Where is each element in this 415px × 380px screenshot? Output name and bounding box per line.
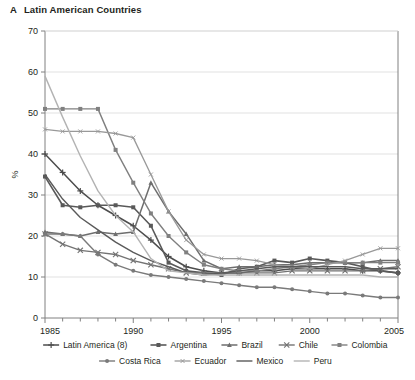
data-point	[343, 291, 347, 295]
data-point	[272, 259, 276, 263]
series-ecuador	[43, 127, 400, 270]
data-point	[43, 232, 47, 236]
data-point	[61, 232, 65, 236]
data-point	[61, 203, 65, 207]
legend-item-brazil[interactable]: Brazil	[221, 340, 262, 350]
legend-label: Chile	[299, 340, 319, 350]
legend-label: Mexico	[256, 356, 283, 366]
data-point	[167, 261, 171, 265]
data-point	[131, 181, 135, 185]
data-point	[184, 238, 188, 242]
series-latin-america-8	[42, 151, 401, 276]
data-point	[156, 343, 160, 347]
x-tick-label: 1995	[211, 326, 231, 336]
legend-item-peru[interactable]: Peru	[294, 356, 332, 366]
y-tick-label: 70	[28, 26, 38, 36]
data-point	[272, 285, 276, 289]
data-point	[396, 261, 400, 265]
data-point	[149, 273, 153, 277]
data-point	[237, 283, 241, 287]
line-chart: 010203040506070%19851990199520002005Lati…	[0, 0, 415, 380]
y-tick-label: 30	[28, 190, 38, 200]
data-point	[184, 250, 188, 254]
data-point	[378, 296, 382, 300]
series-brazil	[43, 180, 401, 270]
y-tick-label: 60	[28, 67, 38, 77]
data-point	[43, 107, 47, 111]
data-point	[308, 257, 312, 261]
legend-label: Peru	[314, 356, 332, 366]
data-point	[361, 261, 365, 265]
y-tick-label: 20	[28, 231, 38, 241]
figure-panel-a: ALatin American Countries 01020304050607…	[0, 0, 415, 380]
series-costa-rica	[43, 232, 400, 300]
x-tick-label: 2000	[300, 326, 320, 336]
data-point	[78, 205, 82, 209]
data-point	[220, 281, 224, 285]
legend-label: Latin America (8)	[63, 340, 127, 350]
legend-label: Ecuador	[195, 356, 227, 366]
series-line	[45, 76, 398, 277]
data-point	[96, 203, 100, 207]
data-point	[396, 271, 400, 275]
data-point	[167, 275, 171, 279]
legend-label: Costa Rica	[119, 356, 161, 366]
data-point	[131, 205, 135, 209]
data-point	[325, 291, 329, 295]
data-point	[131, 269, 135, 273]
y-tick-label: 50	[28, 108, 38, 118]
data-point	[61, 107, 65, 111]
legend-item-mexico[interactable]: Mexico	[236, 356, 283, 366]
data-point	[290, 287, 294, 291]
x-tick-label: 2005	[384, 326, 404, 336]
x-tick-label: 1990	[123, 326, 143, 336]
legend-label: Colombia	[351, 340, 387, 350]
legend-label: Brazil	[241, 340, 262, 350]
y-tick-label: 40	[28, 149, 38, 159]
data-point	[167, 234, 171, 238]
legend-item-latin-america-8[interactable]: Latin America (8)	[43, 340, 127, 350]
legend-item-argentina[interactable]: Argentina	[150, 340, 207, 350]
data-point	[202, 263, 206, 267]
data-point	[96, 107, 100, 111]
data-point	[48, 342, 54, 348]
data-point	[114, 148, 118, 152]
data-point	[96, 252, 100, 256]
series-line	[45, 234, 398, 298]
legend-item-costa-rica[interactable]: Costa Rica	[99, 356, 161, 366]
data-point	[396, 296, 400, 300]
legend-item-colombia[interactable]: Colombia	[331, 340, 387, 350]
data-point	[149, 180, 154, 184]
y-axis-title: %	[10, 170, 20, 178]
data-point	[220, 267, 224, 271]
data-point	[378, 261, 382, 265]
data-point	[255, 285, 259, 289]
data-point	[337, 343, 341, 347]
legend-label: Argentina	[170, 340, 207, 350]
data-point	[78, 234, 82, 238]
data-point	[114, 203, 118, 207]
data-point	[184, 277, 188, 281]
data-point	[114, 263, 118, 267]
legend-item-chile[interactable]: Chile	[279, 340, 319, 350]
x-tick-label: 1985	[40, 326, 60, 336]
data-point	[105, 359, 109, 363]
data-point	[202, 279, 206, 283]
series-peru	[45, 76, 398, 277]
chart-canvas: 010203040506070%19851990199520002005Lati…	[0, 0, 415, 380]
legend-item-ecuador[interactable]: Ecuador	[175, 356, 227, 366]
series-line	[45, 129, 398, 268]
chart-legend: Latin America (8)ArgentinaBrazilChileCol…	[43, 340, 388, 366]
y-tick-label: 0	[33, 313, 38, 323]
y-tick-label: 10	[28, 272, 38, 282]
data-point	[361, 293, 365, 297]
data-point	[308, 289, 312, 293]
data-point	[149, 211, 153, 215]
data-point	[78, 107, 82, 111]
data-point	[149, 224, 153, 228]
